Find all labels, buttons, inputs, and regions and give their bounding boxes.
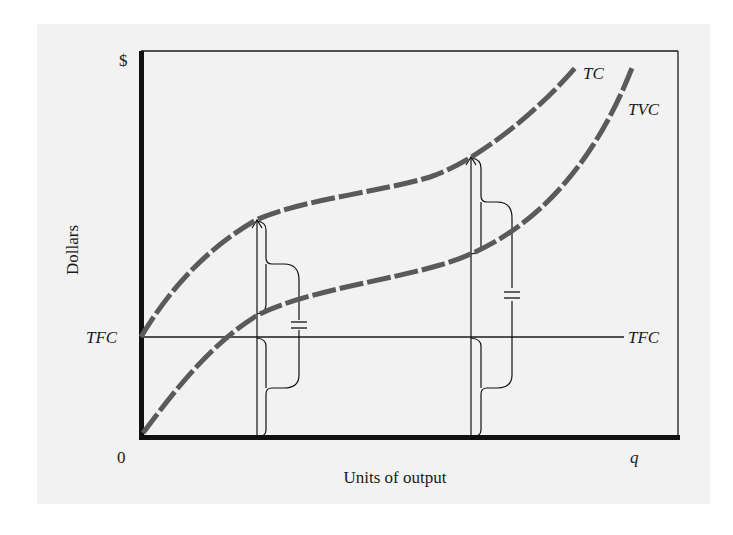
origin-label: 0 [117,448,126,467]
total-cost-diagram: $ Dollars TFC TFC TC TVC 0 q Units of ou… [0,0,733,535]
tvc-curve-label: TVC [628,100,660,119]
tfc-right-label: TFC [628,328,660,347]
tc-curve-label: TC [583,64,604,83]
annotation-left [252,220,307,437]
y-axis-title: Dollars [63,225,82,275]
annotation-right [466,157,520,437]
x-axis-title: Units of output [344,468,447,487]
tc-curve [141,68,575,337]
tfc-left-label: TFC [86,328,118,347]
y-axis-dollar-label: $ [119,51,128,70]
x-axis-q-label: q [630,448,639,467]
